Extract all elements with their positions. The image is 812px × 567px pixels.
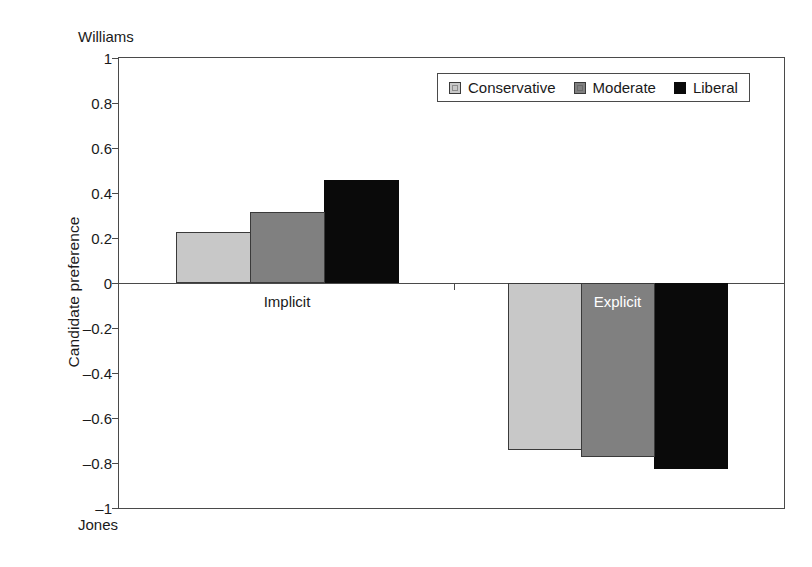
bar-implicit-moderate bbox=[250, 212, 325, 283]
category-label-explicit: Explicit bbox=[594, 293, 642, 310]
bar-implicit-liberal bbox=[324, 180, 399, 284]
y-tick-label: 0.2 bbox=[52, 231, 112, 246]
bar-explicit-conservative bbox=[508, 283, 582, 450]
legend-swatch-liberal-icon bbox=[674, 82, 686, 94]
y-tick-label: 1 bbox=[52, 51, 112, 66]
y-tick-label: 0.4 bbox=[52, 186, 112, 201]
bar-chart-figure: Williams Candidate preference 10.80.60.4… bbox=[0, 0, 812, 567]
y-tick-label: 0 bbox=[52, 276, 112, 291]
y-tick-label: –0.2 bbox=[52, 321, 112, 336]
bar-explicit-liberal bbox=[654, 283, 728, 469]
y-axis-ticks: 10.80.60.40.20–0.2–0.4–0.6–0.8–1 bbox=[0, 0, 112, 567]
y-tick-label: –0.8 bbox=[52, 456, 112, 471]
legend-label-conservative: Conservative bbox=[468, 79, 556, 96]
bar-implicit-conservative bbox=[176, 232, 251, 283]
legend-item-conservative: Conservative bbox=[449, 79, 556, 96]
y-tick-label: –0.4 bbox=[52, 366, 112, 381]
category-label-implicit: Implicit bbox=[264, 293, 311, 310]
legend-item-liberal: Liberal bbox=[674, 79, 738, 96]
legend-label-moderate: Moderate bbox=[593, 79, 656, 96]
legend-item-moderate: Moderate bbox=[574, 79, 656, 96]
y-tick-label: –0.6 bbox=[52, 411, 112, 426]
y-tick-label: 0.8 bbox=[52, 96, 112, 111]
y-tick-label: –1 bbox=[52, 501, 112, 516]
axis-pole-label-bottom: Jones bbox=[78, 516, 118, 533]
legend-label-liberal: Liberal bbox=[693, 79, 738, 96]
plot-area: ImplicitExplicit bbox=[118, 57, 785, 509]
y-tick-label: 0.6 bbox=[52, 141, 112, 156]
legend-swatch-moderate-icon bbox=[574, 82, 586, 94]
chart-legend: Conservative Moderate Liberal bbox=[437, 73, 750, 102]
legend-swatch-conservative-icon bbox=[449, 82, 461, 94]
x-tick-mark bbox=[454, 283, 455, 290]
